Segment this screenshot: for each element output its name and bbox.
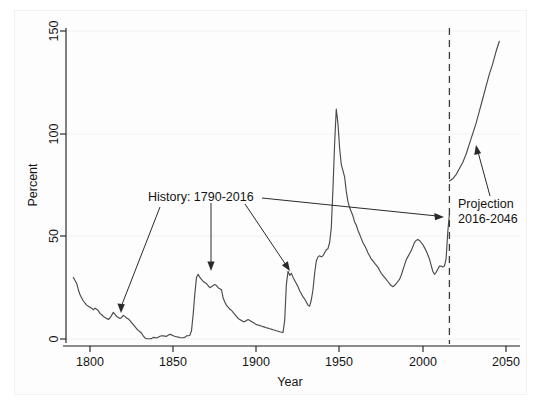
- x-tick-label-1900: 1900: [242, 355, 270, 369]
- history-annotation-label: History: 1790-2016: [148, 190, 254, 204]
- arrow-head-early-1800s: [117, 303, 124, 313]
- x-axis: 1800 1850 1900 1950 2000 2050 Year: [63, 346, 520, 389]
- arrow-to-wwi: [245, 204, 286, 265]
- annotation-arrows: [117, 145, 490, 313]
- projection-annotation-label-line1: Projection: [458, 197, 514, 211]
- y-axis-title: Percent: [26, 163, 40, 207]
- arrow-head-civil-war: [207, 262, 214, 272]
- x-tick-label-1850: 1850: [159, 355, 187, 369]
- gridlines: [66, 31, 520, 339]
- x-tick-label-1800: 1800: [76, 355, 104, 369]
- y-axis: 150 100 50 0 Percent: [26, 21, 66, 343]
- arrow-head-wwi: [282, 261, 290, 271]
- arrow-to-2016: [262, 198, 437, 216]
- projection-series-line: [449, 41, 499, 181]
- projection-annotation-label-line2: 2016-2046: [458, 212, 518, 226]
- arrow-to-early-1800s: [121, 207, 160, 307]
- x-tick-label-1950: 1950: [325, 355, 353, 369]
- y-tick-label-100: 100: [47, 124, 61, 145]
- arrow-to-projection: [478, 152, 490, 196]
- history-series-line: [73, 109, 449, 339]
- y-tick-label-150: 150: [47, 21, 61, 42]
- chart-container: 150 100 50 0 Percent 1800 1850 1900 1950…: [0, 0, 541, 405]
- arrow-head-2016: [434, 213, 444, 220]
- y-tick-label-50: 50: [47, 229, 61, 243]
- x-tick-label-2000: 2000: [409, 355, 437, 369]
- x-axis-title: Year: [277, 375, 302, 389]
- arrow-head-projection: [474, 145, 481, 155]
- x-tick-label-2050: 2050: [492, 355, 520, 369]
- y-tick-label-0: 0: [47, 335, 61, 342]
- chart-svg: 150 100 50 0 Percent 1800 1850 1900 1950…: [0, 0, 541, 405]
